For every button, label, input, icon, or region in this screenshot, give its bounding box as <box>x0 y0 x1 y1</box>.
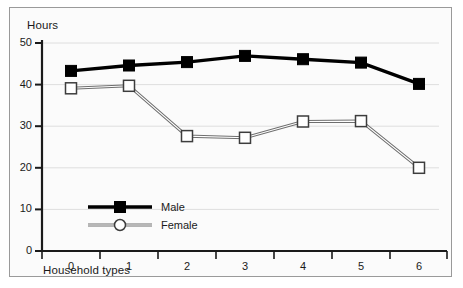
y-tick-label-50: 50 <box>10 36 32 48</box>
line-chart-plot <box>10 8 451 276</box>
x-tick-label-6: 6 <box>399 260 439 272</box>
male-markers <box>66 50 425 89</box>
legend-label-male: Male <box>161 201 185 213</box>
x-tick-label-3: 3 <box>225 260 265 272</box>
x-tick-label-0: 0 <box>51 260 91 272</box>
x-tick-label-4: 4 <box>283 260 323 272</box>
legend-sample-male <box>88 202 152 213</box>
y-tick-label-20: 20 <box>10 161 32 173</box>
y-axis-title: Hours <box>27 19 58 31</box>
y-tick-label-10: 10 <box>10 202 32 214</box>
y-axis <box>35 40 42 251</box>
x-tick-label-2: 2 <box>167 260 207 272</box>
series-female <box>66 80 425 173</box>
chart-figure: Hours Household types 50 40 30 20 10 0 0… <box>0 0 463 288</box>
y-tick-label-30: 30 <box>10 119 32 131</box>
x-tick-label-5: 5 <box>341 260 381 272</box>
x-axis <box>42 251 447 259</box>
female-markers <box>66 80 425 173</box>
series-male <box>66 50 425 89</box>
x-tick-label-1: 1 <box>109 260 149 272</box>
legend-label-female: Female <box>161 219 198 231</box>
chart-panel: Hours Household types 50 40 30 20 10 0 0… <box>9 7 452 277</box>
y-tick-label-40: 40 <box>10 78 32 90</box>
y-tick-label-0: 0 <box>10 244 32 256</box>
legend-sample-female <box>88 220 152 231</box>
legend-samples <box>88 202 152 231</box>
